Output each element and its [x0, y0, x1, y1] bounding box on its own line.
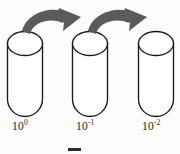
tube-1: [8, 32, 43, 117]
tube-2: [73, 32, 108, 117]
tube-3-label-exponent: -2: [154, 118, 161, 127]
tube-3-label-base: 10: [142, 120, 154, 132]
tube-2-label: 10-1: [76, 120, 95, 132]
dilution-figure: 100 10-1 10-2: [0, 0, 180, 154]
tube-2-label-base: 10: [76, 120, 88, 132]
tube-2-label-exponent: -1: [88, 118, 95, 127]
tube-1-opening: [8, 32, 43, 56]
tube-1-label: 100: [12, 120, 28, 132]
bottom-mark: [68, 148, 81, 151]
tube-1-label-base: 10: [12, 120, 24, 132]
tube-3: [139, 32, 174, 117]
arrow-1-head: [57, 8, 81, 31]
arrow-2-head: [123, 8, 147, 31]
tube-1-label-exponent: 0: [24, 118, 28, 127]
tube-3-opening: [139, 32, 174, 56]
curved-transfer-arrow-icon-2: [88, 8, 147, 34]
tube-3-label: 10-2: [142, 120, 161, 132]
curved-transfer-arrow-icon-1: [22, 8, 81, 34]
tube-2-opening: [73, 32, 108, 56]
